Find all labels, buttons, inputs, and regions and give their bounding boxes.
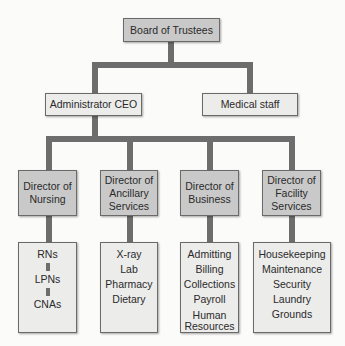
director-facility-line-1: Director of (267, 174, 315, 187)
facility-services-list: Housekeeping Maintenance Security Laundr… (253, 242, 331, 333)
medical-staff-box: Medical staff (202, 93, 298, 116)
list-item: CNAs (34, 297, 61, 312)
connector-facility-dept (289, 215, 295, 243)
list-item: X-ray (116, 247, 141, 262)
director-facility-line-2: Facility (275, 187, 308, 200)
list-item: Security (273, 277, 311, 292)
list-item: Laundry (273, 292, 311, 307)
director-ancillary-line-3: Services (109, 200, 149, 213)
ancillary-services-list: X-ray Lab Pharmacy Dietary (100, 242, 158, 333)
connector-to-business (207, 136, 213, 171)
list-item: Lab (120, 262, 138, 277)
director-nursing-line-2: Nursing (29, 193, 65, 206)
connector-ancillary-dept (127, 215, 133, 243)
director-facility-box: Director of Facility Services (262, 170, 321, 216)
list-item: Resources (184, 321, 234, 332)
connector-to-ancillary (127, 136, 133, 171)
connector-level1-bar (92, 62, 253, 68)
list-item: Dietary (112, 292, 145, 307)
list-item: Billing (195, 262, 223, 277)
director-nursing-box: Director of Nursing (18, 170, 77, 216)
director-ancillary-box: Director of Ancillary Services (100, 170, 158, 216)
list-item: Grounds (272, 307, 312, 322)
connector-nursing-dept (46, 215, 52, 243)
hierarchy-connector (46, 263, 50, 271)
director-facility-line-3: Services (271, 200, 311, 213)
connector-to-medical (247, 62, 253, 94)
connector-to-facility (289, 136, 295, 171)
connector-business-dept (207, 215, 213, 243)
connector-to-admin (92, 62, 98, 94)
business-services-list: Admitting Billing Collections Payroll Hu… (180, 242, 239, 333)
director-business-box: Director of Business (180, 170, 239, 216)
board-of-trustees-box: Board of Trustees (123, 18, 220, 42)
list-item: LPNs (35, 272, 61, 287)
nursing-staff-list: RNs LPNs CNAs (18, 242, 77, 333)
list-item: Maintenance (262, 262, 322, 277)
hierarchy-connector (46, 288, 50, 296)
list-item: Pharmacy (105, 277, 152, 292)
list-item: Housekeeping (258, 247, 325, 262)
director-ancillary-line-1: Director of (105, 174, 153, 187)
connector-directors-bar (46, 136, 295, 142)
board-of-trustees-label: Board of Trustees (130, 24, 213, 37)
director-business-line-2: Business (188, 193, 231, 206)
list-item: RNs (37, 247, 57, 262)
connector-to-nursing (46, 136, 52, 171)
list-item: Admitting (188, 247, 232, 262)
administrator-ceo-label: Administrator CEO (50, 98, 138, 111)
list-item: Collections (184, 277, 235, 292)
director-business-line-1: Director of (185, 180, 233, 193)
list-item: Payroll (193, 292, 225, 307)
director-nursing-line-1: Director of (23, 180, 71, 193)
administrator-ceo-box: Administrator CEO (45, 93, 142, 116)
director-ancillary-line-2: Ancillary (109, 187, 149, 200)
medical-staff-label: Medical staff (221, 98, 280, 111)
